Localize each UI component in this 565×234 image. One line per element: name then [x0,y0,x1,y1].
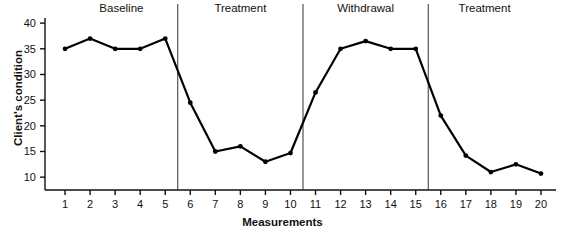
x-tick-label: 10 [284,198,296,210]
phase-label: Treatment [180,2,300,14]
x-tick-label: 11 [310,198,321,210]
data-point [363,39,368,44]
data-point [539,171,544,176]
x-tick-label: 15 [410,198,422,210]
x-tick-label: 16 [435,198,447,210]
data-point [138,46,143,51]
x-tick-label: 14 [385,198,397,210]
y-tick-label: 40 [24,17,36,29]
chart-plot-area: 10152025303540 1234567891011121314151617… [0,0,565,234]
data-point [188,100,193,105]
y-tick-label: 25 [24,94,36,106]
data-point [263,159,268,164]
x-tick-label: 18 [485,198,497,210]
x-tick-label: 3 [112,198,118,210]
data-point [514,162,519,167]
data-point [313,90,318,95]
phase-label: Treatment [425,2,545,14]
data-point [438,113,443,118]
data-point [338,46,343,51]
data-point [463,153,468,158]
x-tick-label: 8 [237,198,243,210]
data-point [163,36,168,41]
data-point [238,144,243,149]
y-tick-label: 20 [24,120,36,132]
phase-label: Baseline [61,2,181,14]
x-tick-label: 7 [212,198,218,210]
y-tick-label: 10 [24,171,36,183]
x-tick-label: 17 [460,198,472,210]
x-tick-label: 13 [360,198,372,210]
y-tick-label: 15 [24,145,36,157]
y-tick-label: 30 [24,68,36,80]
x-axis-ticks: 1234567891011121314151617181920 [62,190,547,210]
single-subject-design-chart: 10152025303540 1234567891011121314151617… [0,0,565,234]
x-tick-label: 2 [87,198,93,210]
phase-label: Withdrawal [306,2,426,14]
y-tick-label: 35 [24,43,36,55]
x-tick-label: 4 [137,198,143,210]
data-point [388,46,393,51]
x-tick-label: 1 [62,198,68,210]
phase-separator-lines [178,4,428,190]
x-tick-label: 12 [334,198,346,210]
data-point [213,149,218,154]
x-tick-label: 5 [162,198,168,210]
data-point [63,46,68,51]
x-tick-label: 9 [262,198,268,210]
x-tick-label: 20 [535,198,547,210]
x-tick-label: 19 [510,198,522,210]
x-axis-label: Measurements [0,216,565,228]
y-axis-label: Client's condition [12,33,24,163]
data-point [288,151,293,156]
data-point [413,46,418,51]
data-point [88,36,93,41]
data-point [488,170,493,175]
data-point [113,46,118,51]
y-axis-ticks: 10152025303540 [24,17,45,183]
x-tick-label: 6 [187,198,193,210]
